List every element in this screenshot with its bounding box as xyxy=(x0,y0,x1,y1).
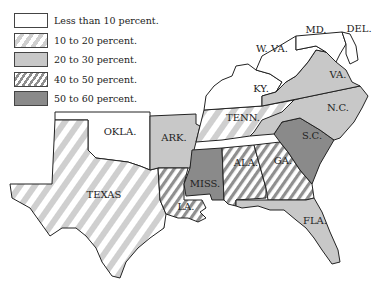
label-fla: FLA. xyxy=(303,215,327,226)
legend: Less than 10 percent. 10 to 20 percent. … xyxy=(14,11,159,109)
label-va: VA. xyxy=(329,69,347,80)
label-sc: S.C. xyxy=(302,130,322,141)
label-nc: N.C. xyxy=(327,102,349,113)
legend-item: 20 to 30 percent. xyxy=(14,50,159,70)
legend-item: 40 to 50 percent. xyxy=(14,70,159,90)
swatch-white xyxy=(14,13,48,28)
legend-item: 50 to 60 percent. xyxy=(14,89,159,109)
swatch-dark-gray xyxy=(14,91,48,106)
label-miss: MISS. xyxy=(190,178,221,189)
label-ala: ALA. xyxy=(233,157,258,168)
label-ky: KY. xyxy=(253,83,269,94)
label-texas: TEXAS xyxy=(87,189,122,200)
label-wva: W. VA. xyxy=(256,43,288,54)
legend-item: Less than 10 percent. xyxy=(14,11,159,31)
swatch-dark-hatch xyxy=(14,72,48,87)
label-ga: GA. xyxy=(274,155,292,166)
label-la: LA. xyxy=(177,201,194,212)
state-florida xyxy=(236,198,340,264)
label-tenn: TENN. xyxy=(226,112,260,123)
swatch-light-gray xyxy=(14,52,48,67)
swatch-light-hatch xyxy=(14,33,48,48)
label-del: DEL. xyxy=(346,23,371,34)
label-md: MD. xyxy=(305,24,326,35)
legend-item: 10 to 20 percent. xyxy=(14,31,159,51)
state-delaware xyxy=(342,32,358,64)
label-okla: OKLA. xyxy=(104,126,137,137)
label-ark: ARK. xyxy=(160,132,186,143)
